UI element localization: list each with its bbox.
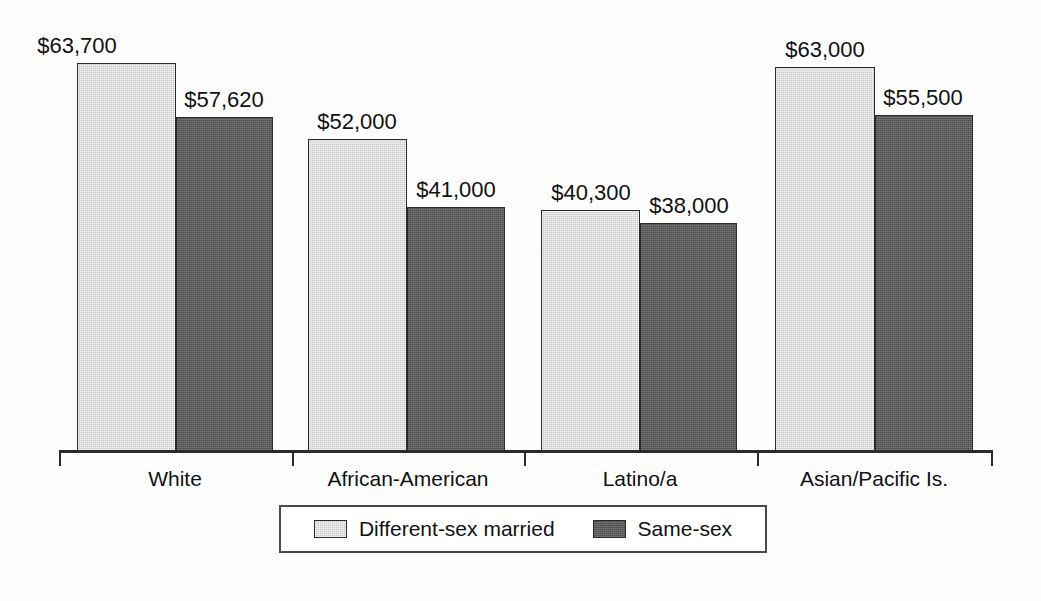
- bar-same-sex-asian-pacific: [875, 115, 973, 451]
- bar-chart: $63,700 $57,620 $52,000 $41,000 $40,300 …: [0, 0, 1041, 601]
- value-label: $41,000: [391, 177, 521, 203]
- legend-label: Different-sex married: [359, 517, 555, 541]
- legend-entry-different-sex-married: Different-sex married: [314, 517, 555, 541]
- axis-tick: [59, 453, 61, 466]
- legend-swatch-icon: [314, 520, 347, 538]
- bar-same-sex-latino: [640, 223, 737, 451]
- legend-entry-same-sex: Same-sex: [593, 517, 733, 541]
- axis-tick: [524, 453, 526, 466]
- bar-different-sex-married-latino: [541, 210, 640, 451]
- legend-swatch-icon: [593, 520, 626, 538]
- bar-different-sex-married-asian-pacific: [775, 67, 875, 451]
- value-label: $57,620: [159, 87, 289, 113]
- legend-label: Same-sex: [638, 517, 733, 541]
- category-label-latino: Latino/a: [575, 466, 705, 492]
- value-label: $55,500: [858, 85, 988, 111]
- bar-different-sex-married-white: [77, 63, 176, 451]
- axis-tick: [757, 453, 759, 466]
- category-label-asian-pacific: Asian/Pacific Is.: [764, 466, 984, 492]
- x-axis-line: [59, 450, 993, 453]
- category-label-white: White: [110, 466, 240, 492]
- value-label: $63,700: [12, 33, 142, 59]
- value-label: $63,000: [760, 37, 890, 63]
- plot-area: $63,700 $57,620 $52,000 $41,000 $40,300 …: [0, 0, 1041, 460]
- category-label-african-american: African-American: [298, 466, 518, 492]
- bar-same-sex-african-american: [407, 207, 505, 451]
- chart-legend: Different-sex married Same-sex: [279, 505, 767, 553]
- value-label: $52,000: [292, 109, 422, 135]
- axis-tick: [292, 453, 294, 466]
- bar-same-sex-white: [176, 117, 273, 451]
- value-label: $38,000: [624, 193, 754, 219]
- axis-tick: [991, 453, 993, 466]
